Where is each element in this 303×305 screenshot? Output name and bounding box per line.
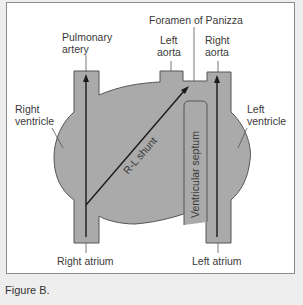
label-right-ventricle-1: Right xyxy=(15,103,40,115)
label-left-atrium: Left atrium xyxy=(192,255,242,267)
heart-body xyxy=(54,71,250,243)
label-pulmonary-1: Pulmonary xyxy=(62,31,113,43)
label-left-ventricle-2: ventricle xyxy=(247,115,286,127)
label-right-atrium: Right atrium xyxy=(57,255,114,267)
label-right-ventricle-2: ventricle xyxy=(15,115,54,127)
label-right-aorta-2: aorta xyxy=(205,46,229,58)
label-left-aorta-1: Left xyxy=(160,34,178,46)
label-foramen: Foramen of Panizza xyxy=(149,14,243,26)
heart-diagram: Pulmonary artery Foramen of Panizza Left… xyxy=(0,0,303,305)
label-left-aorta-2: aorta xyxy=(157,46,181,58)
label-right-aorta-1: Right xyxy=(205,34,230,46)
label-pulmonary-2: artery xyxy=(62,43,90,55)
label-septum: Ventricular septum xyxy=(189,131,201,218)
figure-caption: Figure B. xyxy=(5,284,50,296)
label-left-ventricle-1: Left xyxy=(247,103,265,115)
